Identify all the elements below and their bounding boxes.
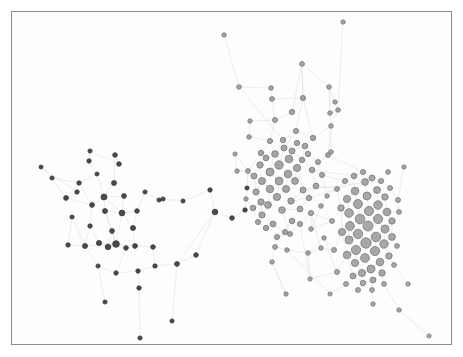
network-graph-canvas[interactable] [0, 0, 463, 357]
network-graph-figure [0, 0, 463, 357]
